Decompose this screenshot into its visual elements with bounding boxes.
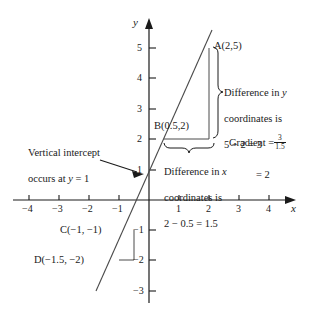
y-tick-label-2: 2 — [137, 133, 142, 146]
y-tick-label-1: 1 — [137, 164, 142, 177]
y-tick-label--2: −2 — [133, 254, 144, 267]
annotation-gradient: Gradient =31.5 = 2 — [229, 122, 286, 194]
annotation-vertical-intercept-line1: Vertical intercept — [28, 146, 100, 159]
point-label-a: A(2,5) — [214, 40, 242, 53]
annotation-difference-x-line1: Difference in x — [164, 165, 227, 178]
annotation-difference-x-line2: coordinates is — [164, 191, 227, 204]
annotation-difference-x-prefix: Difference in — [164, 166, 222, 177]
annotation-gradient-denominator: 1.5 — [274, 142, 285, 151]
annotation-gradient-label: Gradient = — [229, 137, 274, 148]
brace-difference-y — [213, 47, 223, 138]
annotation-vertical-intercept-prefix: occurs at — [28, 173, 68, 184]
annotation-difference-x-variable: x — [222, 166, 227, 177]
y-axis-label: y — [133, 16, 138, 29]
point-label-c: C(−1, −1) — [60, 224, 102, 237]
x-tick-label-4: 4 — [266, 203, 271, 216]
y-tick-label-4: 4 — [137, 72, 142, 85]
annotation-vertical-intercept-line2: occurs at y = 1 — [28, 172, 100, 185]
x-tick-label--1: −1 — [112, 203, 123, 216]
y-tick-label-3: 3 — [137, 103, 142, 116]
coordinate-graph-figure: y x −4 −3 −2 −1 1 2 3 4 5 4 3 2 1 −1 −2 … — [0, 0, 312, 321]
annotation-gradient-fraction: 31.5 — [274, 134, 285, 151]
point-label-b: B(0.5,2) — [154, 120, 189, 133]
annotation-gradient-result: = 2 — [256, 168, 286, 181]
x-tick-label--3: −3 — [52, 203, 63, 216]
annotation-difference-x-line3: 2 − 0.5 = 1.5 — [164, 217, 227, 230]
x-tick-label--2: −2 — [82, 203, 93, 216]
annotation-difference-y-line1: Difference in y — [224, 86, 287, 99]
y-tick-label--3: −3 — [133, 285, 144, 298]
y-tick-label--1: −1 — [133, 224, 144, 237]
point-label-d: D(−1.5, −2) — [34, 254, 84, 267]
annotation-gradient-line1: Gradient =31.5 — [229, 135, 286, 152]
annotation-difference-x: Difference in x coordinates is 2 − 0.5 =… — [164, 152, 227, 243]
annotation-difference-y-variable: y — [282, 87, 287, 98]
x-tick-label--4: −4 — [22, 203, 33, 216]
annotation-vertical-intercept: Vertical intercept occurs at y = 1 — [28, 133, 100, 198]
y-axis-arrowhead — [145, 18, 153, 29]
annotation-gradient-numerator: 3 — [274, 134, 285, 142]
x-axis-label: x — [291, 202, 296, 215]
x-tick-label-3: 3 — [236, 203, 241, 216]
y-tick-label-5: 5 — [137, 42, 142, 55]
annotation-difference-y-prefix: Difference in — [224, 87, 282, 98]
annotation-vertical-intercept-suffix: = 1 — [73, 173, 89, 184]
